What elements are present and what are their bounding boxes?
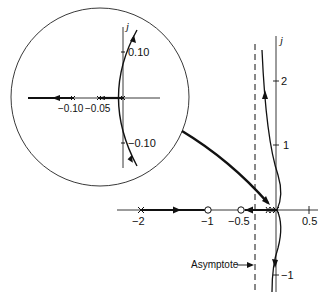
inset-imag-axis-label: j (124, 20, 129, 32)
root-locus-diagram: j −0.10 −0.05 0.10 −0.10 j (0, 0, 327, 300)
main-imag-tick-label: −1 (281, 269, 294, 281)
asymptote-label: Asymptote (191, 259, 239, 270)
main-locus-left-arrow-icon (245, 207, 253, 214)
main-real-tick-label: −0.5 (228, 215, 250, 227)
main-real-tick-label: −2 (132, 215, 145, 227)
main-zero-marker-icon (205, 207, 211, 213)
inset-real-tick-label: −0.10 (58, 103, 84, 114)
main-real-tick-label: 0.5 (302, 215, 317, 227)
inset-locus-left-arrow-icon (52, 95, 60, 101)
main-imag-tick-label: 1 (283, 139, 289, 151)
inset-magnifier: j −0.10 −0.05 0.10 −0.10 (11, 8, 189, 186)
main-lower-branch-arrow-icon (272, 259, 278, 268)
inset-imag-tick-label: −0.10 (128, 137, 156, 149)
inset-imag-tick-label: 0.10 (128, 46, 149, 58)
main-upper-branch-arrow-icon (262, 90, 268, 99)
main-locus-right-arrow-icon (173, 207, 181, 214)
main-imag-axis-label: j (278, 34, 283, 46)
main-plot: j Asymptote −2 −1 −0.5 0.5 (117, 34, 318, 292)
main-imag-tick-label: 2 (281, 75, 287, 87)
main-locus-upper-branch (262, 50, 281, 210)
main-zero-marker-icon (238, 207, 244, 213)
asymptote-pointer-arrow-icon (247, 262, 254, 268)
main-real-tick-label: −1 (201, 215, 214, 227)
inset-real-tick-label: −0.05 (85, 103, 111, 114)
